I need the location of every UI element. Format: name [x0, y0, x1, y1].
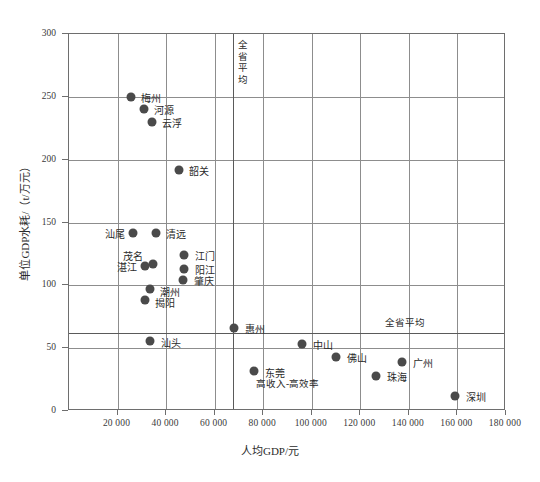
y-tick	[62, 222, 68, 223]
data-point-label: 湛江	[117, 259, 137, 274]
data-point	[372, 371, 381, 380]
y-axis-title: 单位GDP水耗/（t/万元）	[16, 161, 32, 280]
y-tick-label: 250	[26, 91, 56, 101]
y-tick-label: 0	[26, 405, 56, 415]
x-tick-label: 180 000	[489, 418, 521, 428]
x-tick-label: 40 000	[151, 418, 178, 428]
x-tick-label: 80 000	[249, 418, 276, 428]
gridline-vertical	[312, 34, 313, 409]
x-tick	[311, 410, 312, 415]
plot-area: 全 省 平 均全省平均 梅州河源云浮韶关汕尾清远茂名江门湛江阳江肇庆潮州揭阳惠州…	[68, 33, 505, 410]
y-tick	[62, 96, 68, 97]
gridline-horizontal	[69, 348, 504, 349]
data-point-label: 韶关	[189, 162, 209, 177]
data-point-label: 揭阳	[155, 295, 175, 310]
y-tick	[62, 410, 68, 411]
data-point	[141, 296, 150, 305]
x-tick-label: 20 000	[103, 418, 130, 428]
x-tick	[408, 410, 409, 415]
data-point-label: 肇庆	[194, 273, 214, 288]
data-point-label: 中山	[313, 337, 333, 352]
data-point	[140, 105, 149, 114]
data-point	[141, 262, 150, 271]
provincial-average-y-label: 全省平均	[385, 315, 425, 329]
gridline-vertical	[215, 34, 216, 409]
gridline-horizontal	[69, 285, 504, 286]
gridline-horizontal	[69, 223, 504, 224]
data-point	[451, 391, 460, 400]
x-tick	[262, 410, 263, 415]
data-point-label: 江门	[195, 248, 215, 263]
data-point	[146, 336, 155, 345]
y-tick	[62, 159, 68, 160]
gridline-vertical	[263, 34, 264, 409]
data-point	[126, 92, 135, 101]
data-point-label: 佛山	[347, 349, 367, 364]
x-tick	[359, 410, 360, 415]
data-point-label: 珠海	[387, 368, 407, 383]
data-point	[129, 228, 138, 237]
y-tick-label: 100	[26, 279, 56, 289]
data-point-label: 云浮	[162, 114, 182, 129]
data-point-label: 汕尾	[105, 225, 125, 240]
data-point	[230, 324, 239, 333]
provincial-average-x	[233, 34, 234, 409]
x-tick-label: 100 000	[295, 418, 327, 428]
data-point-label: 深圳	[466, 388, 486, 403]
y-tick	[62, 284, 68, 285]
x-tick	[165, 410, 166, 415]
data-point	[175, 165, 184, 174]
data-point	[298, 340, 307, 349]
scatter-chart: 全 省 平 均全省平均 梅州河源云浮韶关汕尾清远茂名江门湛江阳江肇庆潮州揭阳惠州…	[0, 0, 540, 482]
x-tick	[505, 410, 506, 415]
data-point	[146, 285, 155, 294]
data-point	[180, 264, 189, 273]
gridline-vertical	[166, 34, 167, 409]
data-point	[152, 228, 161, 237]
provincial-average-y	[69, 333, 504, 334]
y-tick	[62, 33, 68, 34]
gridline-horizontal	[69, 160, 504, 161]
data-point-label: 广州	[413, 354, 433, 369]
x-tick	[214, 410, 215, 415]
x-axis-title: 人均GDP/元	[0, 442, 540, 458]
data-point-label: 惠州	[245, 321, 265, 336]
y-tick-label: 50	[26, 342, 56, 352]
gridline-vertical	[118, 34, 119, 409]
data-point	[397, 357, 406, 366]
x-tick-label: 120 000	[343, 418, 375, 428]
data-point	[180, 251, 189, 260]
x-tick	[456, 410, 457, 415]
x-tick-label: 140 000	[392, 418, 424, 428]
data-point	[249, 366, 258, 375]
data-point-label: 汕头	[161, 334, 181, 349]
y-tick-label: 300	[26, 28, 56, 38]
provincial-average-x-label: 全 省 平 均	[237, 40, 249, 86]
data-point	[147, 117, 156, 126]
gridline-vertical	[457, 34, 458, 409]
data-point	[332, 352, 341, 361]
x-tick-label: 60 000	[200, 418, 227, 428]
y-tick	[62, 347, 68, 348]
x-tick	[117, 410, 118, 415]
data-point-label: 清远	[166, 225, 186, 240]
gridline-vertical	[409, 34, 410, 409]
quadrant-label-high-income-high-efficiency: 高收入-高效率	[256, 376, 319, 390]
x-tick-label: 160 000	[440, 418, 472, 428]
